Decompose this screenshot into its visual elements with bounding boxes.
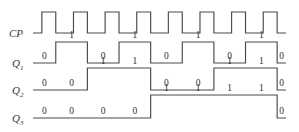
- bit-value-q3-8: 0: [279, 106, 284, 116]
- bit-value-q1-0: 0: [42, 51, 47, 61]
- bit-value-q2-3: 1: [132, 56, 137, 66]
- bit-values-group: 010101010001100110000011110: [42, 30, 284, 116]
- bit-value-q1-3: 1: [132, 30, 137, 40]
- bit-value-q2-6: 1: [227, 56, 232, 66]
- bit-value-q2-8: 0: [279, 78, 284, 88]
- bit-value-q3-7: 1: [259, 83, 264, 93]
- bit-value-q2-7: 1: [259, 56, 264, 66]
- bit-value-q1-4: 0: [164, 51, 169, 61]
- bit-value-q3-5: 1: [196, 83, 201, 93]
- bit-value-q1-5: 1: [196, 30, 201, 40]
- bit-value-q3-1: 0: [69, 106, 74, 116]
- bit-value-q2-1: 0: [69, 78, 74, 88]
- bit-value-q1-8: 0: [279, 51, 284, 61]
- signal-label-q3: Q3: [12, 112, 24, 127]
- signal-label-q1: Q1: [12, 57, 23, 72]
- bit-value-q3-0: 0: [42, 106, 47, 116]
- bit-value-q3-2: 0: [101, 106, 106, 116]
- bit-value-q2-0: 0: [42, 78, 47, 88]
- waveform-q1: [33, 42, 286, 63]
- bit-value-q3-6: 1: [227, 83, 232, 93]
- signal-label-q2: Q2: [12, 84, 24, 99]
- bit-value-q2-2: 1: [101, 56, 106, 66]
- signal-labels-group: CPQ1Q2Q3: [9, 27, 24, 127]
- bit-value-q3-3: 0: [132, 106, 137, 116]
- waveforms-group: [33, 12, 286, 118]
- bit-value-q1-1: 1: [69, 30, 74, 40]
- signal-label-cp: CP: [9, 27, 23, 39]
- bit-value-q1-7: 1: [259, 30, 264, 40]
- waveform-canvas: CPQ1Q2Q3 010101010001100110000011110: [0, 0, 299, 132]
- timing-diagram-figure: CPQ1Q2Q3 010101010001100110000011110: [0, 0, 299, 132]
- bit-value-q3-4: 1: [164, 83, 169, 93]
